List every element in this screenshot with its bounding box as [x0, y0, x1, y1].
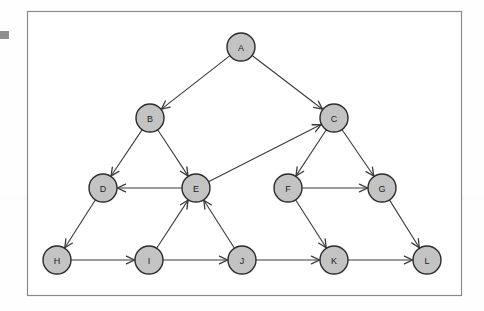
- node-circle[interactable]: [368, 174, 396, 202]
- graph-node-f[interactable]: F: [274, 174, 302, 202]
- node-circle[interactable]: [136, 104, 164, 132]
- graph-node-c[interactable]: C: [320, 104, 348, 132]
- graph-node-h[interactable]: H: [43, 246, 71, 274]
- node-circle[interactable]: [320, 246, 348, 274]
- node-circle[interactable]: [135, 246, 163, 274]
- graph-node-l[interactable]: L: [413, 246, 441, 274]
- graph-node-k[interactable]: K: [320, 246, 348, 274]
- diagram-canvas: ABCDEFGHIJKL: [0, 0, 484, 311]
- graph-svg: ABCDEFGHIJKL: [0, 0, 484, 311]
- node-circle[interactable]: [320, 104, 348, 132]
- node-circle[interactable]: [274, 174, 302, 202]
- node-circle[interactable]: [413, 246, 441, 274]
- graph-node-j[interactable]: J: [228, 246, 256, 274]
- node-circle[interactable]: [43, 246, 71, 274]
- node-circle[interactable]: [228, 246, 256, 274]
- graph-node-i[interactable]: I: [135, 246, 163, 274]
- graph-node-b[interactable]: B: [136, 104, 164, 132]
- graph-node-d[interactable]: D: [89, 174, 117, 202]
- graph-node-a[interactable]: A: [227, 33, 255, 61]
- graph-node-g[interactable]: G: [368, 174, 396, 202]
- graph-node-e[interactable]: E: [182, 174, 210, 202]
- node-circle[interactable]: [227, 33, 255, 61]
- node-circle[interactable]: [89, 174, 117, 202]
- node-circle[interactable]: [182, 174, 210, 202]
